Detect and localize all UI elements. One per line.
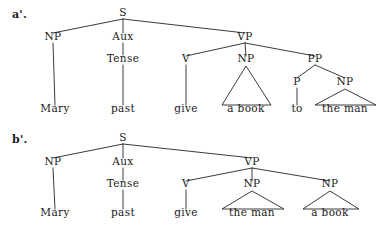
terminal-b-prime-terminal-past: past	[111, 206, 135, 218]
tree-edge-a-prime-edge-vp-pp	[245, 43, 315, 56]
syntax-tree-figure: a'.SNPAuxVPTenseVNPPPPNPMarypastgivea bo…	[0, 0, 383, 231]
terminal-b-prime-terminal-mary: Mary	[40, 206, 69, 218]
panel-label-b-prime: b'.	[12, 133, 28, 146]
node-a-prime-tense: Tense	[107, 52, 140, 64]
terminal-b-prime-terminal-a-book: a book	[311, 206, 349, 218]
node-b-prime-np-do: NP	[322, 177, 339, 189]
tree-edge-b-prime-edge-vp-np-do	[252, 168, 330, 181]
terminal-a-prime-terminal-past: past	[111, 102, 135, 114]
node-b-prime-tense: Tense	[107, 177, 140, 189]
node-a-prime-vp: VP	[236, 30, 252, 42]
node-a-prime-v: V	[181, 52, 190, 64]
node-a-prime-pp: PP	[308, 52, 323, 64]
node-b-prime-np-subj: NP	[45, 155, 62, 167]
tree-panel-a-prime: a'.SNPAuxVPTenseVNPPPPNPMarypastgivea bo…	[12, 6, 376, 114]
terminal-a-prime-terminal-mary: Mary	[40, 102, 69, 114]
node-a-prime-p: P	[293, 75, 300, 87]
tree-edge-b-prime-edge-np-mary	[53, 168, 55, 209]
terminal-b-prime-terminal-the-man: the man	[229, 206, 275, 218]
panel-label-a-prime: a'.	[12, 8, 27, 21]
syntax-tree-canvas: a'.SNPAuxVPTenseVNPPPPNPMarypastgivea bo…	[0, 0, 383, 231]
node-a-prime-s: S	[119, 6, 127, 18]
terminal-a-prime-terminal-to: to	[291, 102, 302, 114]
node-a-prime-np-obj: NP	[238, 52, 255, 64]
node-b-prime-vp: VP	[243, 155, 259, 167]
tree-edge-a-prime-edge-s-vp	[123, 19, 245, 33]
tree-edge-b-prime-edge-vp-v	[186, 168, 252, 181]
node-a-prime-aux: Aux	[111, 30, 133, 42]
node-a-prime-np-pobj: NP	[337, 75, 354, 87]
terminal-a-prime-terminal-give: give	[174, 102, 198, 114]
node-a-prime-np-subj: NP	[45, 30, 62, 42]
node-b-prime-aux: Aux	[111, 155, 133, 167]
node-b-prime-s: S	[119, 131, 127, 143]
terminal-b-prime-terminal-give: give	[174, 206, 198, 218]
terminal-a-prime-terminal-the-man: the man	[322, 102, 368, 114]
node-b-prime-v: V	[181, 177, 190, 189]
terminal-a-prime-terminal-a-book: a book	[227, 102, 265, 114]
tree-panel-b-prime: b'.SNPAuxVPTenseVNPNPMarypastgivethe man…	[12, 131, 359, 218]
tree-edge-a-prime-edge-np-mary	[53, 43, 55, 105]
tree-edge-b-prime-edge-s-vp	[123, 144, 252, 158]
node-b-prime-np-io: NP	[244, 177, 261, 189]
tree-triangle-a-prime-triangle-a-book	[222, 66, 271, 105]
tree-edge-a-prime-edge-vp-v	[186, 43, 245, 56]
